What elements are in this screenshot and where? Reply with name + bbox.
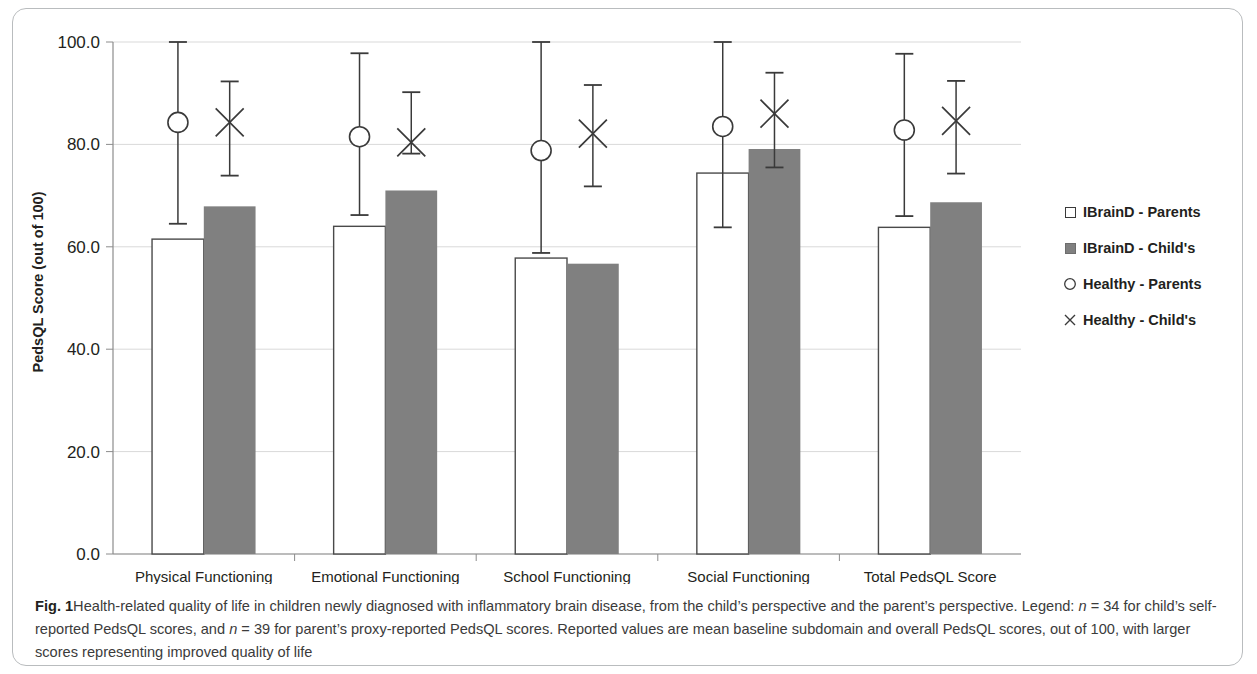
marker-healthy-parents bbox=[531, 141, 551, 161]
legend-label: IBrainD - Parents bbox=[1083, 204, 1201, 220]
chart-legend: IBrainD - Parents IBrainD - Child's Heal… bbox=[1061, 194, 1251, 338]
legend-item-ibraind-parents: IBrainD - Parents bbox=[1061, 194, 1251, 230]
bar-ibraind-parents bbox=[878, 227, 930, 554]
bar-ibraind-childs bbox=[385, 190, 437, 554]
open-square-icon bbox=[1061, 207, 1079, 218]
bar-ibraind-childs bbox=[204, 206, 256, 554]
caption-n-child: n bbox=[1078, 598, 1086, 614]
marker-healthy-parents bbox=[350, 127, 370, 147]
chart-area: PedsQL Score (out of 100) 0.020.040.060.… bbox=[13, 9, 1244, 584]
legend-item-healthy-parents: Healthy - Parents bbox=[1061, 266, 1251, 302]
bar-ibraind-parents bbox=[152, 239, 204, 554]
y-axis-tick: 0.0 bbox=[76, 545, 100, 564]
x-axis-tick-label: Emotional Functioning bbox=[311, 568, 459, 584]
bar-ibraind-parents bbox=[334, 226, 386, 554]
x-axis-tick-label: Physical Functioning bbox=[135, 568, 273, 584]
bar-ibraind-childs bbox=[749, 149, 801, 554]
bar-ibraind-parents bbox=[697, 173, 749, 554]
bar-ibraind-childs bbox=[930, 202, 982, 554]
pedsql-grouped-bar-chart: 0.020.040.060.080.0100.0Physical Functio… bbox=[13, 9, 1244, 584]
marker-healthy-parents bbox=[713, 116, 733, 136]
figure-caption: Fig. 1Health-related quality of life in … bbox=[35, 595, 1225, 664]
cross-icon bbox=[1061, 313, 1079, 327]
y-axis-tick: 20.0 bbox=[67, 443, 100, 462]
x-axis-tick-label: School Functioning bbox=[503, 568, 631, 584]
y-axis-tick: 100.0 bbox=[57, 33, 100, 52]
x-axis-tick-label: Social Functioning bbox=[687, 568, 810, 584]
legend-item-healthy-childs: Healthy - Child's bbox=[1061, 302, 1251, 338]
y-axis-tick: 60.0 bbox=[67, 238, 100, 257]
marker-healthy-parents bbox=[894, 120, 914, 140]
open-circle-icon bbox=[1061, 277, 1079, 291]
legend-item-ibraind-childs: IBrainD - Child's bbox=[1061, 230, 1251, 266]
marker-healthy-parents bbox=[168, 112, 188, 132]
figure-label: Fig. 1 bbox=[35, 598, 73, 614]
legend-label: IBrainD - Child's bbox=[1083, 240, 1195, 256]
bar-ibraind-childs bbox=[567, 264, 619, 554]
legend-label: Healthy - Parents bbox=[1083, 276, 1201, 292]
caption-text-1: Health-related quality of life in childr… bbox=[73, 598, 1078, 614]
x-axis-tick-label: Total PedsQL Score bbox=[864, 568, 997, 584]
figure-card: PedsQL Score (out of 100) 0.020.040.060.… bbox=[12, 8, 1243, 666]
filled-square-icon bbox=[1061, 243, 1079, 254]
bar-ibraind-parents bbox=[515, 258, 567, 554]
y-axis-tick: 80.0 bbox=[67, 135, 100, 154]
y-axis-tick: 40.0 bbox=[67, 340, 100, 359]
legend-label: Healthy - Child's bbox=[1083, 312, 1196, 328]
